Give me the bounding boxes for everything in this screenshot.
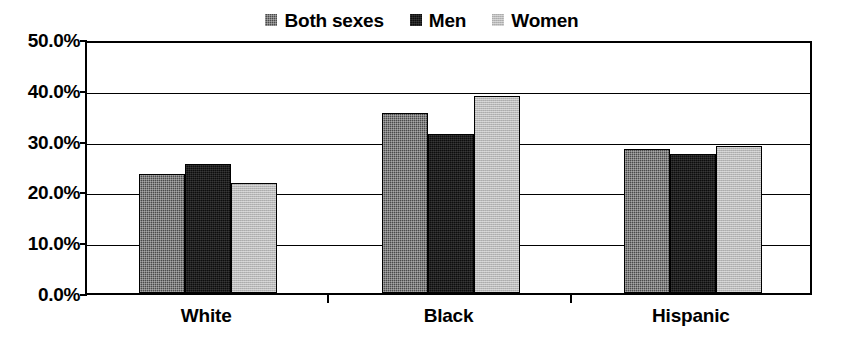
bar-hispanic-women [716, 146, 762, 293]
bar-group-hispanic [624, 43, 762, 293]
x-axis-tick-mark [570, 295, 572, 303]
x-axis-tick-label-white: White [181, 305, 232, 327]
bar-white-women [231, 183, 277, 293]
bar-chart: Both sexesMenWomen 50.0%40.0%30.0%20.0%1… [0, 0, 844, 345]
bar-black-both-sexes [382, 113, 428, 293]
legend-swatch-icon [410, 14, 422, 26]
legend-item-label: Men [429, 11, 466, 30]
bar-group-white [139, 43, 277, 293]
y-axis-tick-label: 30.0% [2, 133, 80, 152]
y-axis-tick-label: 50.0% [2, 31, 80, 50]
x-axis-tick-label-hispanic: Hispanic [652, 305, 730, 327]
y-axis-tick-label: 40.0% [2, 82, 80, 101]
x-axis-tick-mark [327, 295, 329, 303]
legend-item-label: Women [511, 11, 578, 30]
bar-white-both-sexes [139, 174, 185, 293]
legend-swatch-icon [492, 14, 504, 26]
y-axis-tick-label: 10.0% [2, 234, 80, 253]
bar-hispanic-men [670, 154, 716, 293]
y-axis-tick-label: 20.0% [2, 183, 80, 202]
legend-item-women: Women [492, 11, 578, 30]
x-axis: WhiteBlackHispanic [85, 305, 812, 335]
bar-hispanic-both-sexes [624, 149, 670, 293]
bar-black-men [428, 134, 474, 294]
y-axis-tick-label: 0.0% [2, 285, 80, 304]
plot-area [85, 41, 812, 295]
legend-item-both-sexes: Both sexes [265, 11, 383, 30]
bar-group-black [382, 43, 520, 293]
chart-legend: Both sexesMenWomen [0, 8, 844, 32]
legend-item-men: Men [410, 11, 466, 30]
bar-white-men [185, 164, 231, 293]
x-axis-tick-label-black: Black [424, 305, 474, 327]
legend-item-label: Both sexes [284, 11, 383, 30]
bar-black-women [474, 96, 520, 293]
legend-swatch-icon [265, 14, 277, 26]
y-axis: 50.0%40.0%30.0%20.0%10.0%0.0% [0, 0, 80, 345]
